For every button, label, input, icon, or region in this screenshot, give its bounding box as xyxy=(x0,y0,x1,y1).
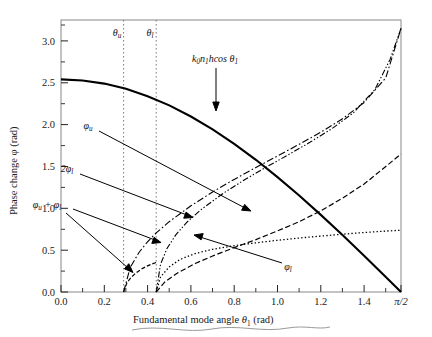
xtick-label-8: π/2 xyxy=(394,296,408,307)
figure-container: 0.0 0.5 1.0 1.5 2.0 2.5 3.0 0.0 0.2 0.4 … xyxy=(0,0,432,337)
ytick-label-4: 2.0 xyxy=(42,119,55,130)
x-axis-label: Fundamental mode angle θ1 (rad) xyxy=(133,314,274,328)
xtick-label-5: 1.0 xyxy=(271,296,284,307)
x-axis-label-suffix: (rad) xyxy=(251,314,275,326)
ytick-label-1: 0.5 xyxy=(42,245,55,256)
y-axis-label: Phase change φ (rad) xyxy=(8,126,20,215)
chart-svg: 0.0 0.5 1.0 1.5 2.0 2.5 3.0 0.0 0.2 0.4 … xyxy=(0,0,432,337)
xtick-label-2: 0.4 xyxy=(141,296,155,307)
xtick-label-7: 1.4 xyxy=(358,296,372,307)
svg-text:Fundamental mode angle θ1 (rad: Fundamental mode angle θ1 (rad) xyxy=(133,314,274,328)
ytick-label-3: 1.5 xyxy=(42,161,55,172)
xtick-label-4: 0.8 xyxy=(228,296,241,307)
xlabel-squiggle xyxy=(132,327,330,330)
xtick-label-0: 0.0 xyxy=(54,296,67,307)
ytick-label-6: 3.0 xyxy=(42,36,55,47)
xtick-label-6: 1.2 xyxy=(314,296,327,307)
xtick-label-3: 0.6 xyxy=(184,296,197,307)
x-axis-label-prefix: Fundamental mode angle xyxy=(133,314,242,325)
ytick-label-0: 0.0 xyxy=(42,287,55,298)
ytick-label-5: 2.5 xyxy=(42,77,55,88)
xtick-label-1: 0.2 xyxy=(98,296,111,307)
